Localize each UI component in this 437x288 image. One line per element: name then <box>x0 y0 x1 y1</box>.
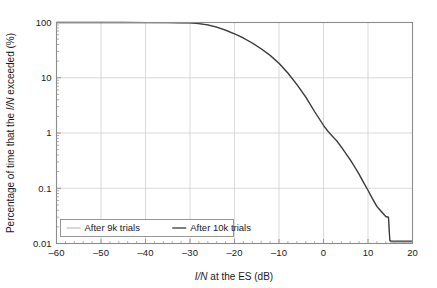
x-tick-label: –10 <box>271 247 287 258</box>
y-tick-label: 10 <box>41 72 52 83</box>
y-axis-title: Percentage of time that the I/N exceeded… <box>5 33 16 233</box>
line-chart: –60–50–40–30–20–10010201001010.10.01 Aft… <box>0 0 437 288</box>
x-tick-label: 0 <box>321 247 326 258</box>
y-tick-label: 100 <box>36 17 52 28</box>
chart-legend: After 9k trialsAfter 10k trials <box>61 220 252 237</box>
x-tick-label: –20 <box>227 247 243 258</box>
legend-label-1: After 10k trials <box>190 222 251 233</box>
x-tick-label: –50 <box>93 247 109 258</box>
x-tick-label: –30 <box>182 247 198 258</box>
x-tick-label: 20 <box>407 247 418 258</box>
y-axis-title-text: Percentage of time that the I/N exceeded… <box>5 33 16 233</box>
x-tick-label: 10 <box>363 247 374 258</box>
chart-background <box>0 0 437 288</box>
y-tick-label: 0.01 <box>33 238 52 249</box>
x-axis-title: I/N at the ES (dB) <box>195 271 273 282</box>
chart-container: –60–50–40–30–20–10010201001010.10.01 Aft… <box>0 0 437 288</box>
x-axis-title-text: I/N at the ES (dB) <box>195 271 273 282</box>
y-tick-label: 1 <box>46 127 51 138</box>
legend-label-0: After 9k trials <box>85 222 141 233</box>
y-tick-label: 0.1 <box>38 183 51 194</box>
x-tick-label: –40 <box>138 247 154 258</box>
